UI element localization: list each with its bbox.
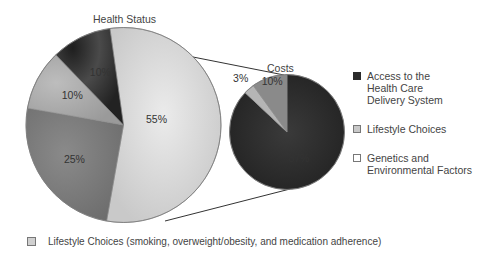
legend-label-lifestyle: Lifestyle Choices bbox=[367, 123, 446, 135]
legend-label-access: Access to the Health Care Delivery Syste… bbox=[367, 70, 443, 106]
health-status-title: Health Status bbox=[93, 13, 156, 25]
legend: Access to the Health Care Delivery Syste… bbox=[353, 70, 489, 193]
slice-label: 10% bbox=[90, 66, 111, 78]
costs-pie bbox=[230, 75, 345, 190]
legend-swatch-dark bbox=[353, 72, 361, 80]
footnote: Lifestyle Choices (smoking, overweight/o… bbox=[27, 236, 381, 247]
slice-label: 87% bbox=[288, 152, 309, 164]
legend-item-genetics: Genetics and Environmental Factors bbox=[353, 152, 489, 176]
legend-swatch-white bbox=[353, 154, 361, 162]
slice-label: 10% bbox=[262, 75, 283, 87]
footnote-text: Lifestyle Choices (smoking, overweight/o… bbox=[48, 236, 381, 247]
costs-title: Costs bbox=[267, 62, 294, 74]
legend-swatch-gray bbox=[353, 125, 361, 133]
legend-item-lifestyle: Lifestyle Choices bbox=[353, 123, 489, 135]
legend-item-access: Access to the Health Care Delivery Syste… bbox=[353, 70, 489, 106]
health-status-pie bbox=[26, 28, 221, 223]
slice-label: 55% bbox=[146, 113, 167, 125]
footnote-swatch bbox=[27, 237, 36, 246]
slice-label: 3% bbox=[233, 72, 248, 84]
slice-label: 25% bbox=[64, 153, 85, 165]
legend-label-genetics: Genetics and Environmental Factors bbox=[367, 152, 472, 176]
slice-label: 10% bbox=[62, 89, 83, 101]
